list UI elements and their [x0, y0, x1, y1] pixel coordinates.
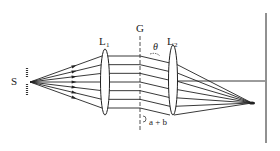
ray-arrow [71, 69, 77, 73]
diffracted-ray [140, 82, 170, 89]
diffracted-ray [140, 56, 170, 63]
diffracted-ray [140, 108, 170, 115]
lens2-subscript: 2 [174, 41, 178, 49]
diffracted-ray [140, 65, 170, 72]
period-bracket [143, 116, 146, 122]
ray-arrow [72, 80, 77, 83]
lens-l1 [101, 49, 110, 115]
diffracted-ray [140, 73, 170, 80]
lens1-subscript: 1 [106, 41, 110, 49]
diverging-ray [30, 82, 102, 99]
converging-ray [174, 80, 252, 103]
converging-ray [174, 63, 252, 103]
lens1-label: L [99, 35, 106, 47]
lens2-label: L [167, 35, 174, 47]
angle-label: θ [153, 41, 158, 52]
converging-rays [174, 63, 255, 115]
diffracted-rays [140, 56, 170, 115]
angle-arc [150, 53, 160, 56]
ray-arrow [71, 90, 77, 94]
period-label: a + b [149, 117, 168, 127]
lens-l2 [169, 45, 178, 115]
diffracted-ray [140, 99, 170, 106]
source-label: S [11, 75, 17, 87]
diagram-canvas: S L 1 G θ L 2 a + b [0, 0, 280, 151]
parallel-rays [105, 56, 140, 108]
diffracted-ray [140, 91, 170, 98]
focus-point [249, 101, 255, 104]
grating-label: G [136, 22, 144, 34]
diverging-ray [30, 65, 102, 82]
ray-arrow [71, 64, 77, 69]
converging-ray [174, 89, 252, 103]
diverging-rays [30, 56, 102, 108]
ray-arrow [71, 96, 77, 101]
